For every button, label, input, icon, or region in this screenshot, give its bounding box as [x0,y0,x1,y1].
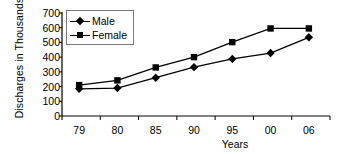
square-marker-icon [70,30,90,40]
legend-label-male: Male [92,16,115,27]
diamond-marker-icon [70,16,90,26]
legend-label-female: Female [92,30,127,41]
legend-item-female: Female [70,28,127,42]
chart-legend: Male Female [66,10,134,45]
chart-figure: Discharges in Thousands 7006005004003002… [0,0,346,154]
legend-item-male: Male [70,14,115,28]
x-axis-label: Years [62,138,346,150]
